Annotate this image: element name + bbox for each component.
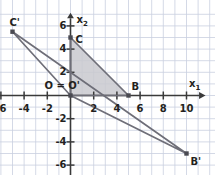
point-label-B: B bbox=[132, 82, 140, 92]
x-axis-label: x1 bbox=[189, 79, 200, 92]
x-tick-label-2: 2 bbox=[87, 104, 101, 114]
point-label-C: C bbox=[76, 35, 83, 45]
x-axis-subscript: 1 bbox=[196, 84, 201, 92]
x-tick-label-8: 8 bbox=[156, 104, 170, 114]
x-tick-label--6: -6 bbox=[0, 104, 8, 114]
y-tick-label-6: 6 bbox=[49, 21, 67, 31]
y-axis-label: x2 bbox=[77, 15, 88, 28]
y-tick-label-4: 4 bbox=[49, 44, 67, 54]
point-label-Cp: C' bbox=[10, 18, 20, 28]
y-tick-label-2: 2 bbox=[49, 67, 67, 77]
x-tick-label--2: -2 bbox=[40, 104, 54, 114]
x-tick-label--4: -4 bbox=[17, 104, 31, 114]
point-label-O: O = O' bbox=[45, 81, 80, 91]
coordinate-plot bbox=[0, 0, 215, 175]
y-tick-label--2: -2 bbox=[49, 114, 67, 124]
figure-canvas: x1 x2 -6-4-2246810642-2-4-6 O = O'BCB'C' bbox=[0, 0, 215, 175]
x-tick-label-4: 4 bbox=[110, 104, 124, 114]
point-label-Bp: B' bbox=[191, 157, 202, 167]
x-tick-label-6: 6 bbox=[133, 104, 147, 114]
y-tick-label--4: -4 bbox=[49, 137, 67, 147]
y-tick-label--6: -6 bbox=[49, 160, 67, 170]
triangles bbox=[13, 32, 187, 154]
x-tick-label-10: 10 bbox=[180, 104, 194, 114]
y-axis-subscript: 2 bbox=[83, 20, 88, 28]
